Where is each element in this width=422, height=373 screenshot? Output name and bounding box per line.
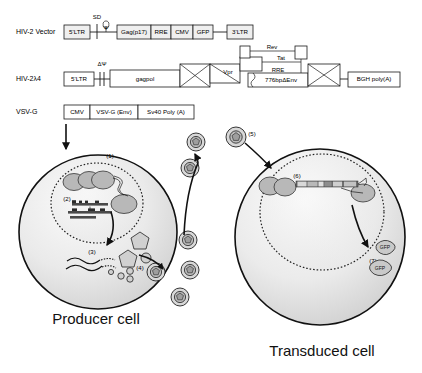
plasmid-blob-4 [111,195,137,214]
template2-tick-c [100,208,105,211]
entering-virion [226,127,246,147]
rev-exon-box-left [240,46,250,58]
step-5-label: (5) [248,131,255,137]
figure-root: HIV-2 Vector 5'LTR SD Ψ Gag(p17) RRE CMV [0,0,422,373]
step-2-label: (2) [63,196,70,202]
template-tick-c [85,201,88,203]
virion-4 [181,261,199,279]
template-tick-b [79,201,82,203]
template-tick-d [95,201,99,203]
virion-1 [187,133,205,151]
construct-vsv-g: VSV-G CMV VSV-G (Env) Sv40 Poly (A) [16,105,194,119]
element-3ltr-label: 3'LTR [232,28,248,35]
step-4-label: (4) [136,265,143,271]
step-6-label: (6) [293,173,300,179]
vpr-label: Vpr [223,69,232,75]
element-gag-p17-label: Gag(p17) [121,28,147,35]
element-bgh-polya-label: BGH poly(A) [357,75,392,82]
element-cmv-label: CMV [70,108,85,115]
element-vsvg-env-label: VSV-G (Env) [96,108,131,115]
budding-virion [147,263,165,281]
element-rre-label: RRE [154,28,167,35]
rev-label: Rev [267,44,278,50]
construct-row-label: VSV-G [16,108,37,115]
template-bar-1 [72,203,108,206]
step-1-label: (1) [106,153,113,159]
transduced-cell-title: Transduced cell [269,342,374,359]
capsid-assembly-6 [127,276,133,282]
gfp-protein-1-label: GFP [380,244,391,250]
provirus-seg-5ltr [298,182,307,187]
construct-row-label: HIV-2 Vector [16,28,56,35]
integrated-provirus [296,181,358,187]
step-3-label: (3) [88,249,95,255]
provirus-seg-rre [319,182,324,187]
diagram-canvas: HIV-2 Vector 5'LTR SD Ψ Gag(p17) RRE CMV [0,0,422,373]
capsid-assembly-5 [118,273,124,279]
provirus-seg-gag [308,182,318,187]
entry-arrow [245,143,271,168]
rre-label: RRE [272,67,285,73]
tat-label: Tat [277,55,285,61]
element-gagpol-label: gagpol [136,75,155,82]
element-delta-env-label: 776bpΔEnv [265,76,298,83]
rev-exon-box-right [295,46,307,59]
producer-cell-title: Producer cell [52,310,140,327]
element-5ltr-label: 5'LTR [71,75,87,82]
transduced-nucleus-fill [261,155,383,269]
template2-tick-a [72,208,77,211]
plasmid-blob-3 [92,171,115,189]
template-bar-2 [68,211,112,214]
provirus-seg-cmv [325,182,332,187]
element-cmv-label: CMV [175,28,190,35]
transduced-cell: (5) (6) (7) [226,127,405,359]
virion-3 [179,231,197,249]
element-5ltr-label: 5'LTR [69,28,85,35]
host-chromosome-2 [274,178,296,196]
construct-hiv2-vector: HIV-2 Vector 5'LTR SD Ψ Gag(p17) RRE CMV [16,14,253,39]
delta-psi-label: ΔΨ [97,61,106,67]
element-gfp-label: GFP [197,28,210,35]
construct-hiv2-lambda4: HIV-2λ4 5'LTR ΔΨ gagpol Vpr [16,44,400,87]
psi-label: Ψ [103,25,108,31]
capsid-assembly-4 [127,268,134,275]
construct-row-label: HIV-2λ4 [16,75,41,82]
template2-tick-b [88,208,95,211]
capsid-assembly-7 [108,269,113,274]
template-bar-3 [70,216,96,219]
producer-cell: (1) (2) [19,153,177,327]
provirus-seg-gfp [333,182,342,187]
template-tick-a [72,200,76,203]
virion-5 [171,288,189,306]
provirus-seg-3ltr [344,182,356,187]
gfp-protein-2-label: GFP [375,265,386,271]
tat-exon-box [240,57,262,71]
sd-label: SD [93,14,102,20]
element-sv40-polya-label: Sv40 Poly (A) [147,108,185,115]
